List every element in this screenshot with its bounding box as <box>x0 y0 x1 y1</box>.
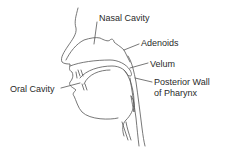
vocal-tract-diagram: Nasal Cavity Adenoids Velum Posterior Wa… <box>0 0 230 147</box>
lower-teeth <box>82 84 87 90</box>
pharynx-posterior-wall <box>128 56 145 146</box>
tongue-outline <box>80 66 134 136</box>
label-posterior-wall: Posterior Wall <box>154 77 210 87</box>
upper-teeth <box>76 70 83 78</box>
label-oral-cavity: Oral Cavity <box>10 84 55 94</box>
oral-cavity-leader <box>61 83 80 88</box>
label-of-pharynx: of Pharynx <box>154 88 197 98</box>
label-velum: Velum <box>150 59 175 69</box>
adenoids-leader <box>124 44 139 50</box>
label-nasal-cavity: Nasal Cavity <box>99 13 150 23</box>
velum-leader <box>130 63 148 68</box>
oral-floor-outline <box>84 70 110 84</box>
label-adenoids: Adenoids <box>141 38 179 48</box>
face-profile-outline <box>61 8 118 119</box>
posterior-wall-leader <box>135 78 152 82</box>
nasal-cavity-outline <box>66 38 130 62</box>
nasal-cavity-leader <box>94 22 97 44</box>
